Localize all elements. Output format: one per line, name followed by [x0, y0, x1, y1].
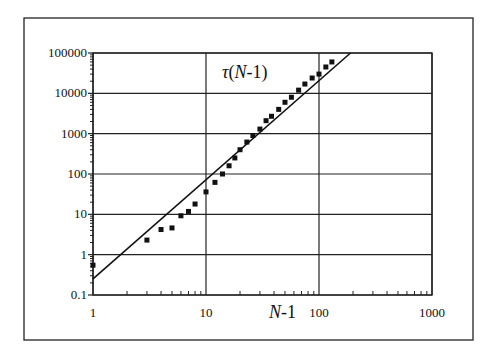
- data-point-marker: [212, 180, 217, 185]
- data-point-marker: [329, 59, 334, 64]
- data-point-marker: [178, 213, 183, 218]
- data-point-marker: [204, 189, 209, 194]
- data-point-marker: [264, 118, 269, 123]
- chart-title: τ(N-1): [222, 62, 267, 83]
- y-tick-label: 100: [68, 166, 88, 181]
- data-point-marker: [193, 202, 198, 207]
- y-tick-label: 1000: [61, 126, 87, 141]
- data-point-marker: [323, 64, 328, 69]
- data-point-marker: [269, 114, 274, 119]
- data-point-marker: [257, 127, 262, 132]
- data-point-marker: [250, 133, 255, 138]
- data-point-marker: [232, 155, 237, 160]
- data-point-marker: [310, 75, 315, 80]
- data-point-marker: [238, 147, 243, 152]
- data-point-marker: [186, 209, 191, 214]
- x-tick-label: 1: [90, 305, 97, 320]
- data-point-marker: [282, 100, 287, 105]
- data-point-marker: [302, 82, 307, 87]
- data-point-marker: [296, 88, 301, 93]
- y-tick-label: 0.1: [71, 287, 87, 302]
- data-point-marker: [227, 163, 232, 168]
- data-point-marker: [144, 238, 149, 243]
- x-tick-label: 10: [200, 305, 213, 320]
- data-point-marker: [276, 107, 281, 112]
- data-point-marker: [220, 172, 225, 177]
- data-point-marker: [91, 263, 96, 268]
- y-tick-label: 10000: [55, 85, 88, 100]
- x-tick-label: 1000: [419, 305, 445, 320]
- y-tick-label: 1: [81, 247, 88, 262]
- y-tick-label: 100000: [48, 45, 87, 60]
- y-tick-label: 10: [74, 206, 87, 221]
- data-point-marker: [244, 140, 249, 145]
- x-axis-title: N-1: [268, 302, 296, 322]
- data-point-marker: [159, 227, 164, 232]
- data-point-marker: [169, 225, 174, 230]
- data-point-marker: [289, 95, 294, 100]
- chart: 1101001000 0.1110100100010000100000 τ(N-…: [0, 0, 493, 361]
- data-point-marker: [317, 72, 322, 77]
- x-tick-label: 100: [309, 305, 329, 320]
